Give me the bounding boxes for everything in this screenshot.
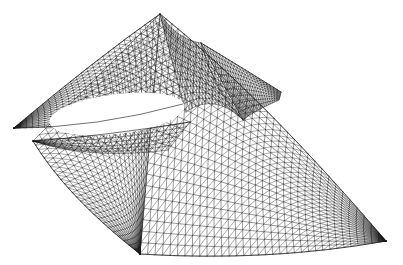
figure-root	[0, 0, 403, 265]
plot-background	[0, 0, 403, 265]
surface-wireframe-plot	[0, 0, 403, 265]
